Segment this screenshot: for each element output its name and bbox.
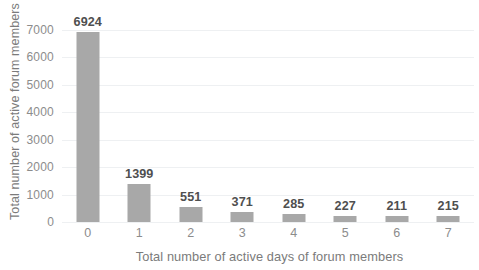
bar[interactable] [334, 216, 357, 222]
y-tick-label: 6000 [10, 50, 54, 64]
y-tick-label: 2000 [10, 160, 54, 174]
bar-slot: 371 [217, 30, 269, 222]
x-tick-label: 4 [290, 226, 297, 240]
y-tick-label: 3000 [10, 133, 54, 147]
x-tick-label: 1 [136, 226, 143, 240]
bar[interactable] [179, 207, 202, 222]
bar[interactable] [128, 184, 151, 222]
x-axis-tick-labels: 01234567 [62, 226, 474, 246]
bar-slot: 227 [320, 30, 372, 222]
bar[interactable] [385, 216, 408, 222]
y-tick-label: 0 [10, 215, 54, 229]
bar-slot: 215 [423, 30, 475, 222]
bar-chart: Total number of active forum members 010… [0, 0, 479, 270]
x-tick-label: 5 [342, 226, 349, 240]
bar-value-label: 211 [386, 199, 407, 213]
x-axis-title: Total number of active days of forum mem… [60, 249, 479, 264]
bar-slot: 551 [165, 30, 217, 222]
x-tick-label: 6 [393, 226, 400, 240]
bar[interactable] [231, 212, 254, 222]
y-tick-label: 4000 [10, 105, 54, 119]
bar-value-label: 285 [283, 197, 304, 211]
bar-value-label: 215 [438, 199, 459, 213]
y-tick-label: 7000 [10, 23, 54, 37]
bar[interactable] [76, 32, 99, 222]
x-tick-label: 0 [84, 226, 91, 240]
bar-slot: 285 [268, 30, 320, 222]
bar-slot: 211 [371, 30, 423, 222]
bar-value-label: 6924 [74, 15, 102, 29]
bar-slot: 1399 [114, 30, 166, 222]
plot-area: 69241399551371285227211215 [62, 30, 474, 222]
gridline [62, 222, 474, 223]
x-tick-label: 2 [187, 226, 194, 240]
bar-value-label: 1399 [125, 167, 153, 181]
bar-value-label: 551 [180, 190, 201, 204]
y-axis-tick-labels: 01000200030004000500060007000 [0, 30, 62, 222]
x-tick-label: 7 [445, 226, 452, 240]
y-tick-label: 5000 [10, 78, 54, 92]
y-tick-label: 1000 [10, 188, 54, 202]
bar-value-label: 371 [232, 195, 253, 209]
bar-slot: 6924 [62, 30, 114, 222]
bar-value-label: 227 [335, 199, 356, 213]
bar[interactable] [282, 214, 305, 222]
x-tick-label: 3 [239, 226, 246, 240]
bar[interactable] [437, 216, 460, 222]
